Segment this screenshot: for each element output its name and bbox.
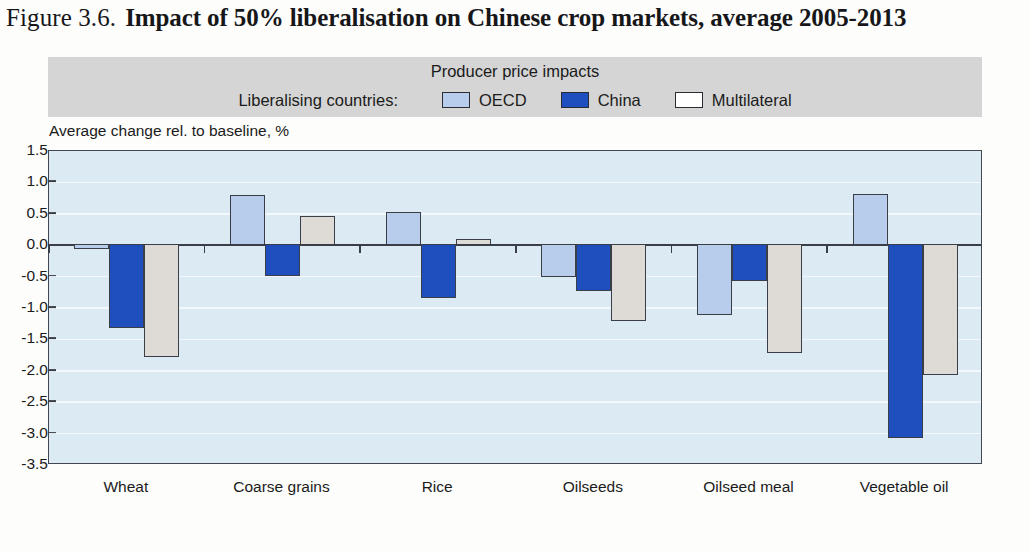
x-axis-category-label: Vegetable oil: [860, 478, 949, 496]
y-axis-tick-mark: [48, 369, 56, 371]
gridline: [49, 339, 981, 341]
y-axis-tick-label: 1.5: [4, 141, 48, 159]
legend-item-china[interactable]: China: [561, 91, 641, 110]
page-title: Impact of 50% liberalisation on Chinese …: [125, 4, 906, 31]
x-axis-tick-mark: [515, 244, 517, 253]
y-axis-tick-label: -3.5: [4, 455, 48, 473]
gridline: [49, 370, 981, 372]
legend-prefix-label: Liberalising countries:: [238, 91, 398, 110]
bar: [265, 244, 300, 275]
bar: [456, 239, 491, 245]
x-axis-category-label: Oilseed meal: [703, 478, 793, 496]
bar: [421, 244, 456, 297]
gridline: [49, 276, 981, 278]
x-axis-tick-mark: [48, 244, 50, 253]
bar: [697, 244, 732, 314]
gridline: [49, 401, 981, 403]
legend-label-oecd: OECD: [479, 91, 527, 110]
y-axis-tick-label: 1.0: [4, 172, 48, 190]
x-axis-tick-mark: [204, 244, 206, 253]
bar: [541, 244, 576, 277]
y-axis-tick-mark: [48, 180, 56, 182]
bar: [386, 212, 421, 245]
legend-entries: Liberalising countries: OECD China Multi…: [48, 88, 982, 112]
y-axis-caption: Average change rel. to baseline, %: [49, 122, 289, 140]
bar: [230, 195, 265, 245]
gridline: [49, 307, 981, 309]
legend-item-oecd[interactable]: OECD: [442, 91, 527, 110]
x-axis-tick-mark: [826, 244, 828, 253]
y-axis-tick-label: -3.0: [4, 424, 48, 442]
legend-label-china: China: [598, 91, 641, 110]
x-axis-category-label: Oilseeds: [563, 478, 623, 496]
legend-label-multilateral: Multilateral: [712, 91, 792, 110]
y-axis-tick-mark: [48, 306, 56, 308]
y-axis-tick-mark: [48, 337, 56, 339]
y-axis-tick-label: -0.5: [4, 267, 48, 285]
y-axis-tick-label: -2.0: [4, 361, 48, 379]
x-axis-category-label: Rice: [422, 478, 453, 496]
y-axis-tick-label: 0.0: [4, 235, 48, 253]
bar: [74, 244, 109, 248]
y-axis-tick-label: -1.0: [4, 298, 48, 316]
bar: [853, 194, 888, 245]
y-axis-tick-mark: [48, 212, 56, 214]
gridline: [49, 433, 981, 435]
y-axis: 1.51.00.50.0-0.5-1.0-1.5-2.0-2.5-3.0-3.5: [0, 0, 48, 553]
plot-area: [48, 150, 982, 464]
gridline: [49, 213, 981, 215]
chart-legend: Producer price impacts Liberalising coun…: [48, 57, 982, 117]
x-axis-tick-mark: [359, 244, 361, 253]
bar: [923, 244, 958, 375]
figure-title-row: Figure 3.6.Impact of 50% liberalisation …: [6, 4, 1026, 38]
x-axis-category-label: Coarse grains: [233, 478, 330, 496]
bar: [611, 244, 646, 321]
legend-swatch-multilateral: [675, 92, 703, 108]
bar: [888, 244, 923, 437]
bar: [144, 244, 179, 357]
legend-swatch-oecd: [442, 92, 470, 108]
y-axis-tick-mark: [48, 432, 56, 434]
bar: [767, 244, 802, 353]
bar: [732, 244, 767, 280]
y-axis-tick-label: -2.5: [4, 392, 48, 410]
x-axis-tick-mark: [671, 244, 673, 253]
legend-title: Producer price impacts: [48, 62, 982, 81]
y-axis-tick-mark: [48, 275, 56, 277]
legend-swatch-china: [561, 92, 589, 108]
figure-page: Figure 3.6.Impact of 50% liberalisation …: [0, 0, 1030, 553]
bar: [576, 244, 611, 291]
bar: [109, 244, 144, 328]
gridline: [49, 182, 981, 184]
y-axis-tick-label: -1.5: [4, 329, 48, 347]
y-axis-tick-label: 0.5: [4, 204, 48, 222]
bar: [300, 216, 335, 246]
y-axis-tick-mark: [48, 400, 56, 402]
x-axis-category-label: Wheat: [103, 478, 148, 496]
legend-item-multilateral[interactable]: Multilateral: [675, 91, 792, 110]
